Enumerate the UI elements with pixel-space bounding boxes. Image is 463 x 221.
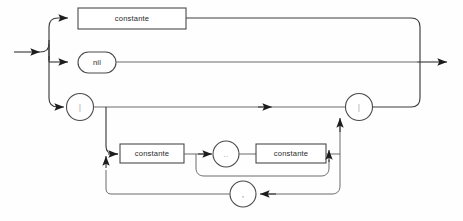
node-constante-lower-right: constante	[256, 144, 326, 163]
node-constante-top-label: constante	[115, 14, 149, 23]
set-body-entry-rail	[106, 107, 118, 154]
node-constante-lower-right-label: constante	[274, 149, 308, 158]
node-bracket-close-label: |	[358, 102, 360, 112]
node-nil-label: nil	[93, 58, 101, 67]
left-branch-rail	[49, 18, 68, 107]
entry-path	[14, 40, 49, 60]
syntax-diagram-canvas: constante nil |	[0, 0, 463, 221]
node-range-dots-label: ..	[223, 150, 229, 159]
node-comma-label: ,	[242, 189, 245, 199]
node-nil: nil	[78, 52, 116, 73]
node-range-dots: ..	[213, 141, 239, 167]
node-constante-lower-left-label: constante	[135, 149, 169, 158]
node-bracket-open-label: |	[79, 102, 81, 112]
node-constante-top: constante	[78, 8, 186, 29]
node-constante-lower-left: constante	[108, 144, 184, 163]
node-bracket-open: |	[67, 94, 94, 121]
bracket-close-out-rail	[373, 62, 421, 107]
comma-return-rail	[106, 170, 230, 194]
railroad-diagram: constante nil |	[0, 0, 463, 221]
element-exit-rail	[326, 118, 340, 162]
node-comma: ,	[230, 181, 256, 207]
node-bracket-close: |	[346, 94, 373, 121]
constante-top-out-rail	[186, 18, 420, 62]
